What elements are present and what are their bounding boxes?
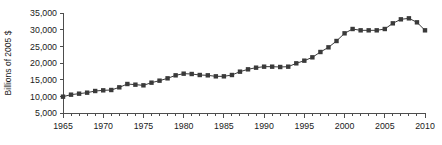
data-point-marker — [206, 73, 210, 77]
data-point-marker — [286, 64, 290, 68]
data-point-marker — [85, 90, 89, 94]
x-tick-label: 1985 — [214, 121, 234, 131]
data-point-marker — [334, 39, 338, 43]
data-point-marker — [109, 88, 113, 92]
data-point-marker — [141, 83, 145, 87]
data-point-marker — [366, 28, 370, 32]
y-tick-label: 35,000 — [30, 8, 57, 18]
data-point-marker — [125, 82, 129, 86]
data-point-marker — [230, 73, 234, 77]
data-point-marker — [342, 31, 346, 35]
data-point-marker — [302, 58, 306, 62]
data-point-marker — [326, 45, 330, 49]
x-tick-label: 1995 — [295, 121, 315, 131]
data-point-marker — [69, 92, 73, 96]
data-point-marker — [254, 65, 258, 69]
x-tick-label: 1965 — [53, 121, 73, 131]
data-point-marker — [358, 28, 362, 32]
data-point-marker — [77, 91, 81, 95]
x-tick-label: 1975 — [134, 121, 154, 131]
data-point-marker — [157, 78, 161, 82]
x-tick-label: 1990 — [254, 121, 274, 131]
data-point-marker — [415, 20, 419, 24]
data-point-marker — [190, 72, 194, 76]
y-tick-label: 20,000 — [30, 58, 57, 68]
chart-container: 5,00010,00015,00020,00025,00030,00035,00… — [0, 0, 442, 145]
data-point-marker — [117, 85, 121, 89]
data-point-marker — [423, 28, 427, 32]
data-point-marker — [214, 74, 218, 78]
y-tick-label: 30,000 — [30, 25, 57, 35]
y-tick-label: 5,000 — [35, 108, 57, 118]
data-point-marker — [173, 73, 177, 77]
data-point-marker — [149, 80, 153, 84]
x-tick-label: 1980 — [174, 121, 194, 131]
data-point-marker — [375, 28, 379, 32]
y-tick-label: 10,000 — [30, 92, 57, 102]
data-point-marker — [407, 16, 411, 20]
y-axis-title: Billions of 2005 $ — [3, 30, 13, 95]
data-point-marker — [318, 50, 322, 54]
data-point-marker — [278, 65, 282, 69]
data-point-marker — [310, 55, 314, 59]
data-point-marker — [222, 74, 226, 78]
y-tick-label: 25,000 — [30, 42, 57, 52]
line-chart: 5,00010,00015,00020,00025,00030,00035,00… — [0, 0, 442, 145]
data-point-marker — [61, 94, 65, 98]
data-point-marker — [294, 61, 298, 65]
data-point-marker — [262, 64, 266, 68]
y-tick-label: 15,000 — [30, 75, 57, 85]
data-point-marker — [391, 21, 395, 25]
data-point-marker — [399, 17, 403, 21]
x-tick-label: 1970 — [93, 121, 113, 131]
data-point-marker — [181, 71, 185, 75]
data-point-marker — [383, 27, 387, 31]
x-tick-label: 2005 — [375, 121, 395, 131]
data-point-marker — [93, 89, 97, 93]
x-tick-label: 2000 — [335, 121, 355, 131]
data-point-marker — [198, 73, 202, 77]
x-tick-label: 2010 — [415, 121, 435, 131]
data-point-marker — [270, 64, 274, 68]
data-point-marker — [165, 76, 169, 80]
data-point-marker — [238, 69, 242, 73]
data-point-marker — [246, 67, 250, 71]
data-point-marker — [350, 27, 354, 31]
data-point-marker — [101, 88, 105, 92]
data-point-marker — [133, 82, 137, 86]
